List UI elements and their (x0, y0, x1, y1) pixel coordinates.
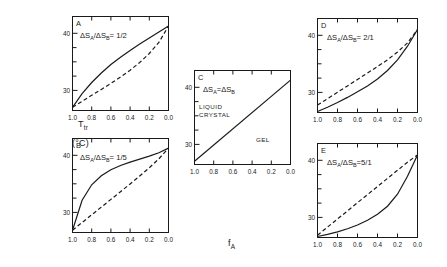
panel-D-ytick-30: 30 (308, 89, 316, 96)
panel-E-letter: E (321, 146, 326, 155)
panel-E-xtick-5: 0.0 (413, 241, 422, 248)
panel-E-ratio-label: ΔSA/ΔSB=5/1 (327, 158, 372, 168)
panel-C-region-liquid-crystal-line1: LIQUID (199, 103, 222, 110)
panel-D-xtick-1: 0.8 (333, 116, 342, 123)
panel-A-letter: A (76, 19, 81, 28)
panel-A-ytick-40: 40 (63, 30, 71, 37)
panel-B-letter: B (76, 141, 81, 150)
panel-E-xtick-1: 0.8 (333, 241, 342, 248)
panel-E-ytick-30: 30 (308, 214, 316, 221)
panel-C-region-gel: GEL (256, 136, 270, 143)
panel-D-ratio-label: ΔSA/ΔSB= 2/1 (327, 33, 374, 43)
panel-D-xtick-5: 0.0 (413, 116, 422, 123)
panel-B-xtick-0: 1.0 (68, 236, 77, 243)
panel-C-region-liquid-crystal-line2: CRYSTAL (199, 111, 230, 118)
panel-C-xtick-1: 0.8 (209, 168, 218, 175)
panel-B-xtick-4: 0.2 (145, 236, 154, 243)
panel-E-xtick-2: 0.6 (353, 241, 362, 248)
panel-B-ratio-label: ΔSA/ΔSB= 1/5 (80, 153, 127, 163)
panel-D-xtick-3: 0.4 (373, 116, 382, 123)
panel-E-xtick-0: 1.0 (313, 241, 322, 248)
panel-C-xtick-5: 0.0 (286, 168, 295, 175)
panel-A: 40 30 1.0 0.8 0.6 0.4 0.2 0.0 A ΔSA/ΔSB=… (60, 10, 185, 130)
panel-B-xtick-1: 0.8 (87, 236, 96, 243)
panel-A-ratio-label: ΔSA/ΔSB= 1/2 (80, 31, 127, 41)
panel-D-xtick-0: 1.0 (313, 116, 322, 123)
panel-A-xtick-0: 1.0 (68, 114, 77, 121)
x-axis-label-sub: A (231, 243, 236, 250)
panel-C-xtick-3: 0.4 (248, 168, 257, 175)
panel-E-liquidus-curve (318, 155, 418, 237)
panel-B: 40 30 1.0 0.8 0.6 0.4 0.2 0.0 B ΔSA/ΔSB=… (60, 132, 185, 254)
panel-A-xtick-3: 0.4 (126, 114, 135, 121)
panel-E-xtick-4: 0.2 (393, 241, 402, 248)
panel-E-ytick-40: 40 (308, 157, 316, 164)
panel-D-y-ticks (318, 35, 323, 92)
panel-B-xtick-3: 0.4 (126, 236, 135, 243)
panel-E-y-ticks (318, 160, 323, 217)
panel-B-xtick-5: 0.0 (164, 236, 173, 243)
panel-A-xtick-4: 0.2 (145, 114, 154, 121)
panel-D-xtick-4: 0.2 (393, 116, 402, 123)
panel-C: 40 30 1.0 0.8 0.6 0.4 0.2 0.0 C ΔSA=ΔSB … (182, 64, 307, 186)
panel-A-xtick-1: 0.8 (87, 114, 96, 121)
panel-B-ytick-30: 30 (63, 209, 71, 216)
panel-A-y-ticks (73, 33, 78, 90)
panel-D: 40 30 1.0 0.8 0.6 0.4 0.2 0.0 D ΔSA/ΔSB=… (305, 12, 433, 132)
panel-C-ytick-40: 40 (185, 84, 193, 91)
panel-C-letter: C (198, 73, 204, 82)
x-axis-label: fA (228, 238, 235, 250)
panel-E-xtick-3: 0.4 (373, 241, 382, 248)
figure-canvas: Ttr (°C) fA (0, 0, 447, 267)
panel-A-ytick-30: 30 (63, 87, 71, 94)
panel-C-xtick-2: 0.6 (228, 168, 237, 175)
panel-C-xtick-0: 1.0 (190, 168, 199, 175)
panel-E: 40 30 1.0 0.8 0.6 0.4 0.2 0.0 E ΔSA/ΔSB=… (305, 137, 433, 259)
panel-A-xtick-5: 0.0 (164, 114, 173, 121)
panel-D-ytick-40: 40 (308, 32, 316, 39)
panel-B-xtick-2: 0.6 (106, 236, 115, 243)
panel-D-letter: D (321, 21, 326, 30)
panel-B-ytick-40: 40 (63, 152, 71, 159)
panel-C-ytick-30: 30 (185, 141, 193, 148)
panel-C-xtick-4: 0.2 (267, 168, 276, 175)
panel-C-ratio-label: ΔSA=ΔSB (203, 85, 235, 95)
panel-D-xtick-2: 0.6 (353, 116, 362, 123)
panel-A-xtick-2: 0.6 (106, 114, 115, 121)
panel-B-y-ticks (73, 155, 78, 212)
